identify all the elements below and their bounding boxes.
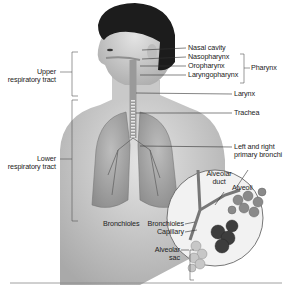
pharynx-label: Pharynx: [251, 64, 277, 72]
respiratory-diagram: Upper respiratory tract Lower respirator…: [0, 0, 285, 286]
oropharynx-label: Oropharynx: [188, 62, 225, 70]
upper-tract-label-2: respiratory tract: [0, 76, 56, 84]
trachea-label: Trachea: [234, 109, 259, 117]
bronchioles-label: Bronchioles: [103, 220, 139, 228]
larynx-label: Larynx: [234, 90, 255, 98]
bronchi-label-2: primary bronchi: [234, 151, 282, 159]
nasopharynx-label: Nasopharynx: [188, 53, 229, 61]
alveolar-duct-label-2: duct: [204, 178, 234, 186]
capillary-label: Capillary: [140, 228, 184, 236]
nasal-cavity-label: Nasal cavity: [188, 44, 226, 52]
alveoli-label: Alveoli: [232, 184, 252, 192]
alveolar-sac-label-2: sac: [150, 254, 180, 262]
lower-tract-label-2: respiratory tract: [0, 163, 56, 171]
laryngopharynx-label: Laryngopharynx: [188, 71, 238, 79]
